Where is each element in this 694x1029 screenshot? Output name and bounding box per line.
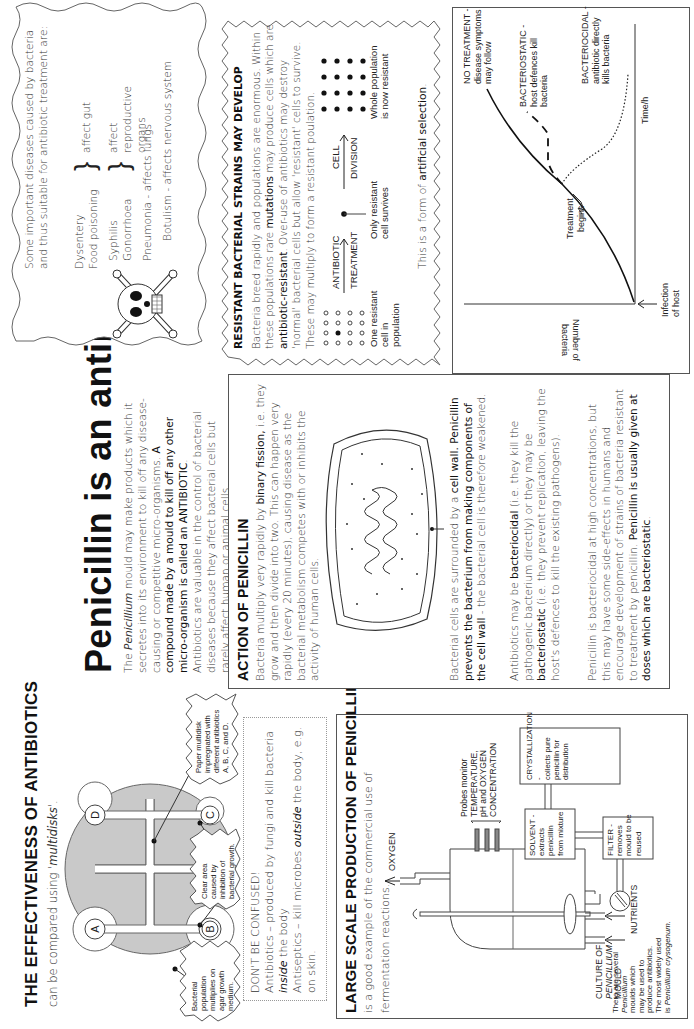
y-axis-label: Number of bacteria [560,319,581,361]
effect-gut: affect gut [79,102,93,153]
diseases-intro: Some important diseases caused by bacter… [22,24,50,269]
ylabel-line2: bacteria [560,319,571,361]
cryst-line3: penicillin for distribution [552,726,570,780]
brace-reproductive: } [104,162,134,171]
intro-p1-c: . [177,459,189,462]
filter-line3: mould to be [624,814,633,856]
action-title: ACTION OF PENICILLIN [235,518,251,681]
intro-paragraph-1: The Penicillium mould may make products … [122,388,191,673]
action-p3-bacteriostatic: bacteriostatic [535,608,547,681]
cryst-line2: collects pure [543,726,552,780]
callout-clear-area: Clear area caused by inhibition of bacte… [200,837,236,899]
rotated-worksheet-page: THE EFFECTIVENESS OF ANTIBIOTICS can be … [0,0,694,1029]
action-paragraph-3: Antibiotics may be bacteriocidal (i.e. t… [508,383,562,681]
ylabel-line1: Number of [571,319,582,361]
label-bacteriostatic: BACTERIOSTATIC - host defences kill bact… [518,25,550,107]
solvent-label: SOLVENT - extracts penicillin from mixtu… [528,812,565,856]
intro-text: The Penicillium mould may make products … [122,388,232,673]
skull-crossbones-icon [100,269,180,339]
subtitle-suffix: '. [46,800,60,807]
action-p1-bold: binary fission, [254,430,266,504]
infection-line1: Infection [660,283,671,317]
disease-pneumonia: Pneumonia - affects lungs [140,124,154,261]
filter-line4: reused [634,814,643,856]
caption-whole-population: Whole population is now resistant [368,39,390,119]
resistant-mutations: mutations [263,176,275,228]
disease-gonorrhoea: Gonorrhoea [120,161,134,261]
no-treatment-line2: disease symptoms [473,8,484,84]
action-paragraph-2: Bacterial cells are surrounded by a cell… [448,383,489,681]
caption-only-resistant: Only resistant cell survives [368,169,390,239]
production-title: LARGE SCALE PRODUCTION OF PENICILLIN [342,681,359,1013]
solvent-line3: penicillin [546,812,555,856]
footer-a: This is a form of [416,181,428,269]
solvent-line4: from mixture [556,812,565,856]
solvent-line1: SOLVENT - [528,812,537,856]
effectiveness-title: THE EFFECTIVENESS OF ANTIBIOTICS [22,681,42,1007]
disk-d-label: D [89,811,101,819]
resistant-antibiotic-resistant: antibiotic-resistant [277,252,289,349]
cryst-line1: CRYSTALLIZATION - [525,726,543,780]
dont-be-confused-content: DON'T BE CONFUSED! Antibiotics – produce… [249,727,319,993]
label-no-treatment: NO TREATMENT - disease symptoms may foll… [462,8,494,84]
arrow-antibiotic-label: ANTIBIOTIC [330,236,341,289]
action-p2-b: - the bacterial cell is therefore weaken… [475,394,487,618]
bacteriostatic-line2: host defences kill [529,25,540,107]
intro-paragraph-2: Antibiotics are valuable in the control … [191,388,232,673]
line1-suffix: the body [277,908,290,960]
footer-b: . [416,83,428,86]
no-treatment-line1: NO TREATMENT - [462,8,473,84]
arrow-division-label: DIVISION [348,137,359,179]
filter-line2: removes [615,814,624,856]
callout-bacterial-population: Bacterial population multiplies on agar … [190,955,235,1011]
bacteriocidal-line3: kills bacteria [601,6,612,84]
arrow-treatment-label: TREATMENT [348,232,359,289]
resistant-footer: This is a form of artificial selection. [415,83,429,269]
probes-line4: CONCENTRATION [489,743,499,817]
subtitle-prefix: can be compared using ' [46,866,60,1007]
action-p1-a: Bacteria multiply very rapidly by [254,505,266,681]
footer-artificial-selection: artificial selection [416,87,428,181]
action-paragraph-1: Bacteria multiply very rapidly by binary… [254,383,322,681]
no-treatment-line3: may follow [483,8,494,84]
caption-one-resistant: One resistant cell in population [368,287,401,347]
label-treatment-begins: Treatment begins [565,198,586,239]
resistant-text-b: may produce cells which are [263,24,275,176]
note-line7: is Penicillium crysogenum. [664,881,673,1013]
line1-prefix: Antibiotics – produced by fungi and kill… [263,731,276,993]
bacteriostatic-line3: bacteria [539,25,550,107]
disease-botulism: Botulism - affects nervous system [160,61,174,241]
bacteriocidal-line2: antibiotic directly [591,6,602,84]
treatment-line1: Treatment [565,198,576,239]
resistant-title: RESISTANT BACTERIAL STRAINS MAY DEVELOP [232,66,245,349]
filter-line1: FILTER - [606,814,615,856]
bacterium-cell-diagram [322,414,442,644]
bacteriocidal-line1: BACTERIOCIDAL - [580,6,591,84]
action-p3-a: Antibiotics may be [508,579,520,681]
antibiotics-definition: Antibiotics – produced by fungi and kill… [263,727,291,993]
intro-p1-genus: Penicillium [122,593,134,650]
bacteriostatic-line1: BACTERIOSTATIC - [518,25,529,107]
solvent-line2: extracts [537,812,546,856]
x-axis-label: Time/h [640,97,651,124]
disk-c-label: C [204,811,216,819]
disk-a-label: A [89,925,101,933]
intro-p1-a: The [122,650,134,673]
probes-label: Probes monitor TEMPERATURE, pH and OXYGE… [460,743,498,817]
filter-label: FILTER - removes mould to be reused [606,814,643,856]
arrow-cell-label: CELL [330,145,341,169]
action-p3-bacteriocidal: bacteriocidal [508,511,520,579]
line2-prefix: Antiseptics – kill microbes [291,847,304,993]
label-infection-of-host: Infection of host [660,283,681,317]
confused-heading: DON'T BE CONFUSED! [249,727,263,993]
brace-gut: } [70,162,100,171]
action-paragraph-4: Penicillin is bacteriocidal at high conc… [586,383,654,681]
disk-b-label: B [204,925,216,932]
subtitle-term: multidisks [46,807,60,866]
line1-emph: inside [277,960,290,993]
antiseptics-definition: Antiseptics – kill microbes outside the … [291,727,319,993]
diseases-group-reproductive: Syphilis Gonorrhoea [106,161,134,261]
disease-syphilis: Syphilis [106,161,120,261]
line2-emph: outside [291,807,304,848]
oxygen-label: OXYGEN [388,832,397,871]
